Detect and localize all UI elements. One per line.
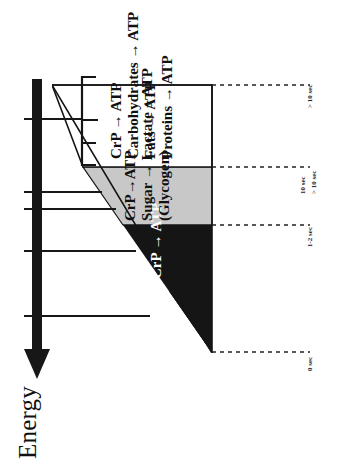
arrow-head-icon xyxy=(24,349,50,379)
arrow-shaft xyxy=(32,79,42,353)
section-label-cellular-atp: ATP xyxy=(156,308,173,337)
label-crp-atp-4: CrP → ATP xyxy=(108,12,125,159)
energy-arrow-icon xyxy=(24,79,50,379)
diagram-canvas: Energy xyxy=(0,0,337,471)
label-carbohydrates: Carbohydrates → ATP xyxy=(125,12,142,159)
time-tick-lines xyxy=(210,79,322,353)
label-fats: Fats → ATP xyxy=(142,12,159,159)
leader-line-4 xyxy=(24,118,82,120)
label-atp: ATP xyxy=(156,308,173,337)
leader-line-1 xyxy=(24,315,150,317)
leader-line-3b xyxy=(24,191,102,193)
section-label-aerobic: CrP → ATP Carbohydrates → ATP Fats → ATP… xyxy=(108,12,176,159)
leader-line-3a xyxy=(24,208,116,210)
tick-label-2b: > 10 sec xyxy=(310,171,318,194)
tick-label-3: > 10 sec xyxy=(306,85,314,108)
tick-label-0: 0 sec xyxy=(306,357,314,371)
leader-line-2 xyxy=(24,250,136,252)
page-title: Energy xyxy=(14,386,42,459)
label-proteins: Proteins → ATP xyxy=(159,12,176,159)
tick-label-1: 1-2 sec xyxy=(306,227,314,247)
rotated-diagram-group: Energy xyxy=(0,0,337,471)
tick-label-2a: 10 sec xyxy=(299,176,307,194)
